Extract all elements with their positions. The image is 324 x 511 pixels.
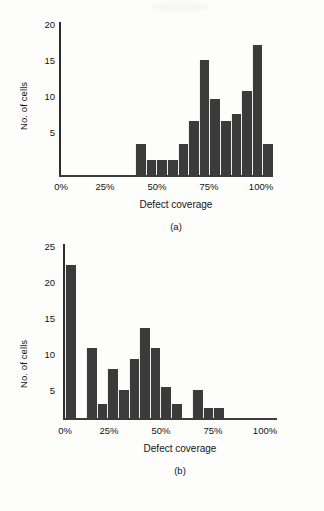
chart-b-bar	[97, 404, 108, 418]
chart-a-bar	[209, 99, 220, 176]
y-tick-b-4: 5	[33, 385, 55, 396]
chart-b-bar	[65, 265, 76, 418]
x-tick-b-3: 75%	[196, 425, 230, 436]
x-axis-label-b: Defect coverage	[18, 443, 324, 454]
x-tick-a-3: 75%	[192, 181, 226, 192]
x-tick-a-4: 100%	[244, 181, 278, 192]
x-tick-a-0: 0%	[44, 181, 78, 192]
chart-b-bar	[107, 369, 118, 418]
y-tick-a-2: 10	[33, 91, 55, 102]
chart-panel-a: No. of cells 20 15 10 5 0% 25% 50% 75% 1…	[0, 0, 324, 255]
y-tick-b-0: 25	[33, 241, 55, 252]
x-tick-a-2: 50%	[140, 181, 174, 192]
chart-a-bar	[220, 121, 231, 175]
y-axis-label-b: No. of cells	[18, 340, 29, 388]
chart-b-bar	[86, 348, 97, 418]
bars-b	[65, 244, 277, 418]
chart-b-bar	[129, 359, 140, 418]
chart-a-bar	[156, 160, 167, 175]
chart-b-bar	[139, 328, 150, 418]
chart-a-bar	[262, 144, 273, 175]
chart-b-bar	[192, 390, 203, 418]
chart-b-bar	[203, 408, 214, 418]
plot-area-a: No. of cells 20 15 10 5 0% 25% 50% 75% 1…	[0, 0, 324, 255]
chart-a-bar	[167, 160, 178, 175]
x-tick-b-0: 0%	[48, 425, 82, 436]
x-axis-line-b	[63, 418, 277, 420]
bars-a	[61, 22, 273, 175]
chart-a-bar	[241, 91, 252, 175]
chart-b-bar	[150, 348, 161, 418]
y-axis-label-a: No. of cells	[18, 82, 29, 130]
x-tick-b-1: 25%	[92, 425, 126, 436]
x-tick-b-4: 100%	[248, 425, 282, 436]
y-tick-a-1: 15	[33, 55, 55, 66]
chart-a-bar	[188, 121, 199, 175]
chart-panel-b: No. of cells 25 20 15 10 5 0% 25% 50% 75…	[0, 236, 324, 511]
chart-a-bar	[252, 45, 263, 175]
chart-b-bar	[213, 408, 224, 418]
panel-letter-a: (a)	[14, 221, 324, 232]
y-tick-b-2: 15	[33, 313, 55, 324]
x-tick-b-2: 50%	[144, 425, 178, 436]
y-tick-b-1: 20	[33, 277, 55, 288]
y-tick-a-3: 5	[33, 127, 55, 138]
chart-b-bar	[118, 390, 129, 418]
chart-a-bar	[146, 160, 157, 175]
chart-a-bar	[178, 144, 189, 175]
chart-a-bar	[135, 144, 146, 175]
chart-a-bar	[231, 114, 242, 175]
x-axis-line-a	[59, 175, 273, 177]
chart-a-bar	[199, 60, 210, 175]
y-tick-b-3: 10	[33, 349, 55, 360]
plot-area-b: No. of cells 25 20 15 10 5 0% 25% 50% 75…	[0, 236, 324, 511]
panel-letter-b: (b)	[18, 465, 324, 476]
x-axis-label-a: Defect coverage	[14, 199, 324, 210]
x-tick-a-1: 25%	[88, 181, 122, 192]
chart-b-bar	[160, 387, 171, 418]
y-tick-a-0: 20	[33, 19, 55, 30]
chart-b-bar	[171, 404, 182, 418]
